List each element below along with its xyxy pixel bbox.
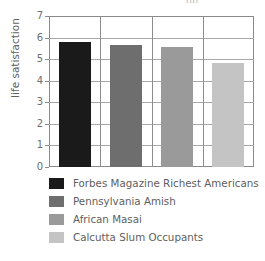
y-tick-label: 7 [37,11,43,21]
y-tick-mark [45,167,49,168]
chart-title-remnant: pp [186,0,226,3]
legend-item[interactable]: Calcutta Slum Occupants [49,228,265,246]
chart-legend: Forbes Magazine Richest AmericansPennsyl… [49,174,265,246]
y-tick-mark [45,38,49,39]
gridline-vertical [152,16,153,167]
bar [59,42,91,167]
legend-swatch-icon [49,196,64,207]
legend-swatch-icon [49,214,64,225]
y-tick-mark [45,81,49,82]
legend-item-label: Forbes Magazine Richest Americans [73,178,259,188]
y-tick-mark [45,16,49,17]
legend-item-label: Calcutta Slum Occupants [73,232,203,242]
y-tick-label: 1 [37,140,43,150]
legend-item-label: Pennsylvania Amish [73,196,176,206]
legend-item[interactable]: Forbes Magazine Richest Americans [49,174,265,192]
gridline-vertical [203,16,204,167]
bar [161,47,193,167]
y-tick-label: 2 [37,119,43,129]
y-tick-mark [45,124,49,125]
legend-item[interactable]: African Masai [49,210,265,228]
y-tick-label: 6 [37,33,43,43]
legend-item-label: African Masai [73,214,142,224]
y-tick-mark [45,145,49,146]
y-axis-title: life satisfaction [9,0,21,118]
legend-swatch-icon [49,232,64,243]
y-tick-mark [45,59,49,60]
y-tick-label: 4 [37,76,43,86]
plot-area: 01234567 [49,16,254,167]
y-tick-label: 0 [37,162,43,172]
gridline-vertical [100,16,101,167]
bar-chart-figure: pp life satisfaction 01234567 Forbes Mag… [0,0,265,261]
y-tick-label: 5 [37,54,43,64]
y-tick-label: 3 [37,97,43,107]
bar [110,45,142,167]
bar [212,63,244,167]
legend-item[interactable]: Pennsylvania Amish [49,192,265,210]
legend-swatch-icon [49,178,64,189]
y-tick-mark [45,102,49,103]
